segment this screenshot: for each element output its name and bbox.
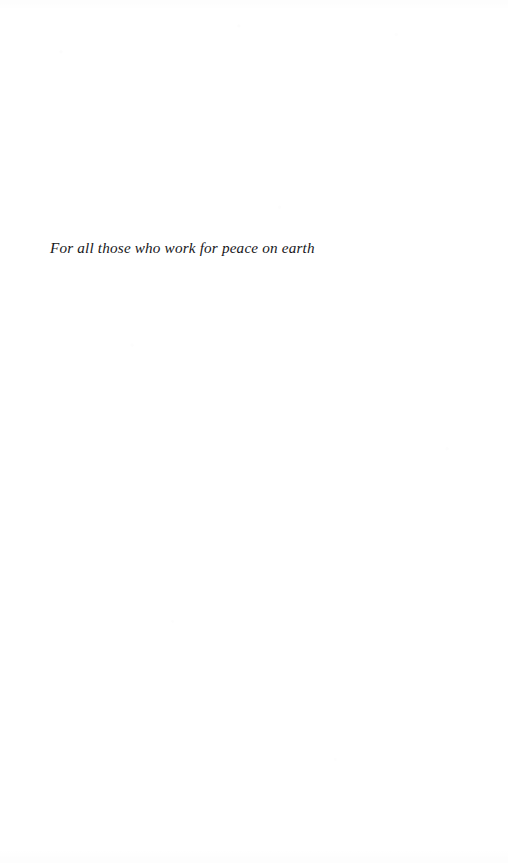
paper-texture bbox=[0, 0, 508, 863]
book-page: For all those who work for peace on eart… bbox=[0, 0, 508, 863]
dedication-text: For all those who work for peace on eart… bbox=[50, 238, 350, 258]
dedication-block: For all those who work for peace on eart… bbox=[50, 238, 350, 258]
